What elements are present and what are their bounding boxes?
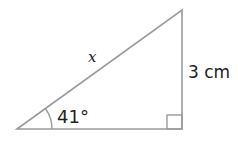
angle-arc [45,109,52,130]
side-length-label: 3 cm [188,62,230,82]
triangle-outline [17,10,182,129]
hypotenuse-label: x [88,48,97,66]
right-angle-marker [167,115,182,129]
triangle-diagram: x 41° 3 cm [0,0,238,143]
angle-label: 41° [57,106,89,127]
triangle-svg: x 41° 3 cm [0,0,238,143]
